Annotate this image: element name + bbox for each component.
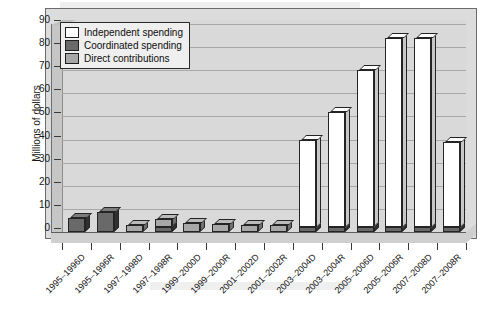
bar-segment[interactable]	[385, 38, 402, 228]
legend-swatch-independent	[65, 27, 79, 38]
y-tick-mark-40	[54, 136, 61, 137]
bar-side-face	[460, 137, 465, 227]
y-tick-label-30: 30	[24, 154, 50, 164]
legend-swatch-direct	[65, 53, 79, 64]
x-tick-mark-8	[293, 243, 294, 250]
y-tick-label-20: 20	[24, 177, 50, 187]
bar-segment[interactable]	[414, 227, 431, 232]
bar-segment[interactable]	[357, 227, 374, 232]
bar-segment[interactable]	[68, 218, 85, 232]
y-axis-title: Millions of dollars	[31, 54, 42, 194]
legend-swatch-coordinated	[65, 40, 79, 51]
y-tick-label-90: 90	[24, 15, 50, 25]
x-tick-mark-9	[322, 243, 323, 250]
chart-legend: Independent spending Coordinated spendin…	[60, 22, 190, 69]
x-tick-mark-6	[235, 243, 236, 250]
bar-segment[interactable]	[126, 225, 143, 232]
legend-label-direct: Direct contributions	[84, 53, 170, 64]
bar-segment[interactable]	[212, 224, 229, 232]
y-tick-mark-20	[54, 182, 61, 183]
bar-segment[interactable]	[385, 227, 402, 232]
bar-segment[interactable]	[155, 219, 172, 227]
legend-item-coordinated: Coordinated spending	[65, 39, 183, 52]
y-tick-mark-50	[54, 112, 61, 113]
x-tick-mark-11	[379, 243, 380, 250]
legend-item-direct: Direct contributions	[65, 52, 183, 65]
bar-segment[interactable]	[241, 225, 258, 232]
y-tick-mark-30	[54, 159, 61, 160]
bar-segment[interactable]	[328, 112, 345, 228]
y-tick-label-40: 40	[24, 131, 50, 141]
y-tick-mark-60	[54, 89, 61, 90]
bar-segment[interactable]	[357, 70, 374, 227]
bar-segment[interactable]	[270, 225, 287, 232]
bar-side-face	[316, 135, 321, 228]
y-tick-mark-10	[54, 205, 61, 206]
x-tick-mark-1	[91, 243, 92, 250]
x-tick-mark-5	[206, 243, 207, 250]
legend-item-independent: Independent spending	[65, 26, 183, 39]
bar-side-face	[402, 33, 407, 227]
bar-segment[interactable]	[414, 38, 431, 228]
y-tick-label-80: 80	[24, 38, 50, 48]
y-tick-mark-0	[54, 228, 61, 229]
bar-side-face	[345, 107, 350, 227]
x-tick-mark-3	[149, 243, 150, 250]
y-tick-mark-90	[54, 20, 61, 21]
chart-screenshot: Millions of dollars 0102030405060708090 …	[0, 0, 487, 313]
legend-label-coordinated: Coordinated spending	[84, 40, 182, 51]
bar-segment[interactable]	[299, 140, 316, 228]
x-tick-mark-7	[264, 243, 265, 250]
y-axis: Millions of dollars 0102030405060708090	[10, 0, 50, 313]
x-tick-mark-0	[62, 243, 63, 250]
y-tick-label-70: 70	[24, 61, 50, 71]
legend-label-independent: Independent spending	[84, 27, 183, 38]
bar-side-face	[431, 33, 436, 227]
x-tick-mark-10	[351, 243, 352, 250]
y-tick-label-10: 10	[24, 200, 50, 210]
x-tick-mark-12	[408, 243, 409, 250]
y-tick-label-0: 0	[24, 223, 50, 233]
bar-segment[interactable]	[299, 227, 316, 232]
x-tick-mark-4	[177, 243, 178, 250]
bar-segment[interactable]	[443, 227, 460, 232]
bar-segment[interactable]	[183, 223, 200, 232]
bar-segment[interactable]	[328, 227, 345, 232]
bar-segment[interactable]	[443, 142, 460, 228]
bar-segment[interactable]	[155, 227, 172, 232]
x-tick-mark-2	[120, 243, 121, 250]
bar-side-face	[374, 65, 379, 227]
y-tick-label-60: 60	[24, 84, 50, 94]
x-tick-mark-13	[437, 243, 438, 250]
bar-segment[interactable]	[97, 212, 114, 232]
x-tick-mark-14	[466, 243, 467, 250]
y-tick-label-50: 50	[24, 107, 50, 117]
